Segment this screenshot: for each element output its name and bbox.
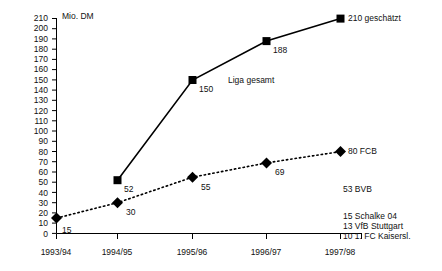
y-axis-ticks	[52, 19, 56, 234]
chart-container: Mio. DM 210 200 190 180 170 160 150 140 …	[0, 0, 442, 271]
x-axis-label-1993-94: 1993/94	[26, 248, 86, 257]
y-axis-label-70: 70	[26, 158, 48, 167]
data-label-fcb-55: 55	[201, 183, 210, 192]
y-axis-label-40: 40	[26, 189, 48, 198]
data-label-liga-210: 210 geschätzt	[348, 14, 401, 23]
x-axis-ticks	[57, 234, 362, 240]
series-markers-fcb	[51, 146, 346, 224]
note-bvb: 53 BVB	[343, 185, 372, 194]
series-markers-liga-gesamt	[114, 15, 345, 185]
y-axis-label-100: 100	[26, 127, 48, 136]
series-line-liga-gesamt	[118, 19, 341, 181]
y-axis-label-200: 200	[26, 24, 48, 33]
note-vfb: 13 VfB Stuttgart	[343, 222, 403, 231]
data-label-liga-150: 150	[199, 85, 213, 94]
data-label-fcb-80: 80 FCB	[348, 147, 377, 156]
data-label-fcb-15: 15	[62, 226, 71, 235]
y-axis-label-10: 10	[26, 219, 48, 228]
y-axis-label-0: 0	[26, 230, 48, 239]
x-axis-label-1994-95: 1994/95	[87, 248, 147, 257]
y-axis-label-130: 130	[26, 96, 48, 105]
note-schalke: 15 Schalke 04	[343, 212, 397, 221]
y-axis-label-210: 210	[26, 14, 48, 23]
data-label-liga-52: 52	[124, 185, 133, 194]
data-label-fcb-30: 30	[126, 208, 135, 217]
series-label-liga-gesamt: Liga gesamt	[228, 76, 274, 85]
y-axis-label-120: 120	[26, 107, 48, 116]
y-axis-label-30: 30	[26, 199, 48, 208]
x-axis-label-1995-96: 1995/96	[162, 248, 222, 257]
y-axis-label-170: 170	[26, 55, 48, 64]
y-axis-label-160: 160	[26, 65, 48, 74]
note-fck: 10 1. FC Kaisersl.	[343, 232, 411, 241]
y-axis-label-140: 140	[26, 86, 48, 95]
x-axis-label-1996-97: 1996/97	[236, 248, 296, 257]
y-axis-label-180: 180	[26, 45, 48, 54]
x-axis-label-1997-98: 1997/98	[310, 248, 370, 257]
data-label-fcb-69: 69	[275, 168, 284, 177]
y-axis-label-150: 150	[26, 76, 48, 85]
y-axis-label-50: 50	[26, 178, 48, 187]
y-axis-title: Mio. DM	[62, 12, 94, 21]
data-label-liga-188: 188	[273, 46, 287, 55]
y-axis-label-80: 80	[26, 148, 48, 157]
y-axis-label-90: 90	[26, 137, 48, 146]
series-line-fcb	[57, 152, 341, 219]
y-axis-label-110: 110	[26, 117, 48, 126]
y-axis-label-20: 20	[26, 209, 48, 218]
y-axis-label-190: 190	[26, 35, 48, 44]
y-axis-label-60: 60	[26, 168, 48, 177]
